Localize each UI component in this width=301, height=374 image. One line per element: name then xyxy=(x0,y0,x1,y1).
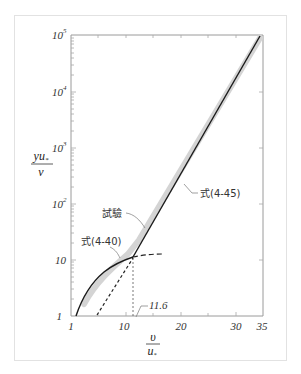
annotation-eq-4-40: 式(4-40) xyxy=(81,235,122,247)
x-tick-10: 10 xyxy=(119,320,131,332)
annotation-experiment: 試驗 xyxy=(102,207,122,219)
x-ticks xyxy=(98,35,236,316)
x-tick-30: 30 xyxy=(230,320,243,332)
annotation-leaders xyxy=(110,184,198,317)
svg-text:υ: υ xyxy=(150,330,156,344)
log-law-line xyxy=(133,36,260,257)
experiment-band xyxy=(84,38,260,304)
y-tick-10: 10 xyxy=(55,254,67,266)
y-tick-1e4: 104 xyxy=(52,84,67,98)
annotation-11-6: 11.6 xyxy=(149,299,168,311)
chart-canvas: 試驗 式(4-40) 式(4-45) 11.6 1 10 102 103 104… xyxy=(0,0,301,374)
svg-text:yu*: yu* xyxy=(33,149,49,164)
y-tick-1e3: 103 xyxy=(52,140,67,154)
svg-text:ν: ν xyxy=(38,165,44,179)
y-tick-1e5: 105 xyxy=(52,27,67,41)
x-tick-35: 35 xyxy=(256,320,269,332)
y-axis-label: yu* ν xyxy=(31,149,53,179)
x-tick-20: 20 xyxy=(176,320,188,332)
x-tick-labels: 1 10 20 30 35 xyxy=(68,320,268,332)
y-tick-labels: 1 10 102 103 104 105 xyxy=(52,27,67,322)
x-tick-1: 1 xyxy=(68,320,74,332)
svg-text:u*: u* xyxy=(148,344,157,358)
viscous-dashed-extension xyxy=(133,254,162,257)
x-axis-label: υ u* xyxy=(146,330,160,358)
y-tick-1e2: 102 xyxy=(52,196,67,210)
viscous-sublayer-curve xyxy=(76,257,133,316)
y-tick-1: 1 xyxy=(57,310,63,322)
annotation-eq-4-45: 式(4-45) xyxy=(200,187,241,199)
